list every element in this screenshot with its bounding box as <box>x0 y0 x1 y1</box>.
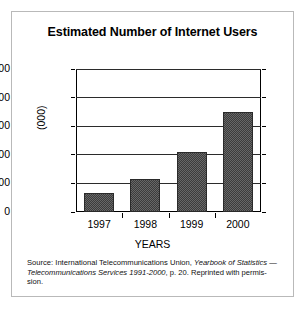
y-tick-mark <box>71 69 75 70</box>
y-tick-mark <box>71 97 75 98</box>
y-tick-mark <box>71 183 75 184</box>
x-tick-label: 1999 <box>169 218 215 230</box>
source-caption: Source: International Telecommunications… <box>27 258 281 287</box>
caption-line1-plain: Source: International Telecommunications… <box>27 258 194 267</box>
y-tick-mark <box>262 126 266 127</box>
chart-title: Estimated Number of Internet Users <box>12 25 293 39</box>
x-tick-label: 2000 <box>215 218 261 230</box>
plot-area: 06001,2001,8002,4003,000 199719981999200… <box>76 69 261 212</box>
y-tick-mark <box>262 212 266 213</box>
y-tick-mark <box>262 69 266 70</box>
bar <box>177 152 207 212</box>
caption-line2-plain: , p. 20. Reprinted with permis- <box>166 268 267 277</box>
y-tick-label: 2,400 <box>0 91 10 103</box>
y-tick-mark <box>71 212 75 213</box>
gridline <box>76 69 261 70</box>
y-tick-label: 600 <box>0 176 10 188</box>
y-tick-mark <box>262 183 266 184</box>
y-tick-label: 3,000 <box>0 62 10 74</box>
chart-figure: Estimated Number of Internet Users (000)… <box>11 11 294 297</box>
y-tick-mark <box>71 154 75 155</box>
y-tick-mark <box>262 154 266 155</box>
y-tick-mark <box>262 97 266 98</box>
x-tick-label: 1998 <box>122 218 168 230</box>
x-tick-label: 1997 <box>76 218 122 230</box>
gridline <box>76 97 261 98</box>
bar <box>84 193 114 212</box>
y-tick-label: 1,200 <box>0 148 10 160</box>
y-axis-label: (000) <box>35 105 47 130</box>
bar <box>223 112 253 212</box>
y-tick-label: 1,800 <box>0 119 10 131</box>
bar <box>130 179 160 212</box>
x-axis-label: YEARS <box>12 238 293 250</box>
caption-line1-italic: Yearbook of Statistics <box>194 258 267 267</box>
caption-line3-plain: sion. <box>27 277 43 286</box>
y-tick-label: 0 <box>0 205 10 217</box>
y-tick-mark <box>71 126 75 127</box>
